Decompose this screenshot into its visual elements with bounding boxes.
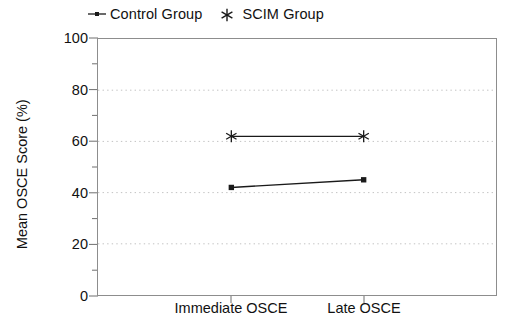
x-axis-tick-labels: Immediate OSCE Late OSCE — [97, 301, 497, 321]
legend-item-control-group: Control Group — [88, 7, 202, 22]
legend-item-scim-group: SCIM Group — [220, 7, 324, 22]
y-tick-label-80: 80 — [72, 82, 88, 97]
y-axis-tick-labels: 100 80 60 40 20 0 — [50, 38, 88, 296]
data-point-control-immediate — [229, 185, 234, 190]
line-with-square-marker-icon — [88, 8, 106, 20]
y-tick-label-40: 40 — [72, 186, 88, 201]
plot-area — [97, 38, 497, 296]
chart-legend: Control Group SCIM Group — [88, 3, 324, 25]
x-tick-label-late-osce: Late OSCE — [327, 301, 400, 316]
asterisk-marker-icon — [220, 8, 238, 20]
chart-figure: Control Group SCIM Group Mean OSCE Score… — [0, 0, 515, 324]
y-tick-label-100: 100 — [64, 31, 88, 46]
y-tick-label-0: 0 — [80, 289, 88, 304]
series-line-control-group — [231, 180, 363, 188]
y-tick-label-60: 60 — [72, 134, 88, 149]
legend-label-control-group: Control Group — [110, 7, 202, 22]
y-tick-label-20: 20 — [72, 237, 88, 252]
y-axis-label: Mean OSCE Score (%) — [15, 74, 30, 274]
data-point-control-late — [361, 177, 366, 182]
data-series-layer — [98, 39, 496, 295]
legend-label-scim-group: SCIM Group — [242, 7, 324, 22]
x-tick-label-immediate-osce: Immediate OSCE — [175, 301, 288, 316]
series-scim-group — [226, 130, 369, 142]
series-control-group — [229, 177, 367, 190]
